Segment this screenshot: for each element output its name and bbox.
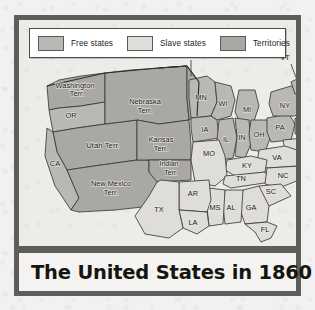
figure-title: The United States in 1860 [31,261,312,284]
map-panel: .free { fill: #b9b8b4; } .slave { fill: … [19,20,296,246]
legend-label-territories: Territories [253,39,290,48]
legend-item-slave-states[interactable]: Slave states [127,29,206,57]
label-new-mexico-terr-2: Terr. [104,188,118,197]
legend-item-territories[interactable]: Territories [220,29,290,57]
region-new-jersey[interactable] [295,118,296,134]
label-alabama: AL [226,203,235,212]
label-washington-terr-2: Terr. [70,89,84,98]
region-missouri[interactable] [191,140,227,186]
label-tennessee: TN [236,174,246,183]
label-pennsylvania: PA [275,123,284,132]
region-nebraska-terr[interactable] [105,66,189,124]
label-texas: TX [154,205,164,214]
figure-page: .free { fill: #b9b8b4; } .slave { fill: … [0,0,315,310]
label-illinois: IL [223,135,229,144]
label-kansas-terr: Kansas [149,135,174,144]
label-mississippi: MS [209,203,220,212]
label-virginia: VA [272,153,281,162]
label-oregon: OR [65,111,76,120]
label-kentucky: KY [242,161,252,170]
label-indian-terr: Indian [160,160,179,167]
label-south-carolina: SC [266,187,277,196]
label-utah-terr: Utah Terr. [86,141,120,150]
legend-swatch-slave-states [127,36,153,51]
title-panel: The United States in 1860 [19,253,296,291]
legend-label-slave-states: Slave states [160,39,206,48]
label-michigan: MI [243,105,251,114]
label-louisiana: LA [188,218,197,227]
label-new-york: NY [280,101,290,110]
label-missouri: MO [203,149,215,158]
leader-vt [291,64,296,80]
label-california: CA [50,159,60,168]
legend-swatch-free-states [38,36,64,51]
legend-item-free-states[interactable]: Free states [38,29,113,57]
label-georgia: GA [246,203,257,212]
label-nebraska-terr-2: Terr. [138,106,152,115]
label-arkansas: AR [188,189,198,198]
label-north-carolina: NC [278,171,289,180]
legend-label-free-states: Free states [71,39,113,48]
map-legend: Free states Slave states Territories [29,28,286,58]
panel-divider [19,246,296,253]
map-figure: .free { fill: #b9b8b4; } .slave { fill: … [14,15,301,296]
label-florida: FL [261,225,270,234]
label-minnesota: MN [195,93,207,102]
label-nebraska-terr: Nebraska [129,97,162,106]
legend-swatch-territories [220,36,246,51]
label-iowa: IA [202,125,209,134]
label-wisconsin: WI [218,99,227,108]
label-indian-terr-2: Terr. [164,169,177,176]
label-new-mexico-terr: New Mexico [91,179,131,188]
label-kansas-terr-2: Terr. [154,144,168,153]
label-indiana: IN [238,133,245,142]
label-ohio: OH [253,130,264,139]
figure-inner: .free { fill: #b9b8b4; } .slave { fill: … [19,20,296,291]
